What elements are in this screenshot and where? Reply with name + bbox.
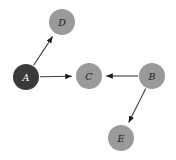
node-label-e: E bbox=[117, 133, 125, 144]
graph-edge-a-to-c bbox=[40, 76, 72, 77]
node-label-b: B bbox=[148, 71, 156, 82]
graph-node-a[interactable]: A bbox=[13, 64, 39, 90]
node-label-c: C bbox=[85, 71, 93, 82]
node-label-d: D bbox=[57, 17, 66, 28]
graph-node-e[interactable]: E bbox=[108, 125, 134, 151]
graph-edge-b-to-e bbox=[129, 89, 146, 123]
node-layer: ADCBE bbox=[13, 9, 165, 151]
node-label-a: A bbox=[22, 72, 30, 83]
graph-figure: ADCBE bbox=[0, 0, 176, 160]
graph-canvas: ADCBE bbox=[0, 0, 176, 160]
graph-node-b[interactable]: B bbox=[139, 63, 165, 89]
graph-node-c[interactable]: C bbox=[76, 63, 102, 89]
graph-edge-a-to-d bbox=[34, 36, 53, 65]
graph-node-d[interactable]: D bbox=[49, 9, 75, 35]
